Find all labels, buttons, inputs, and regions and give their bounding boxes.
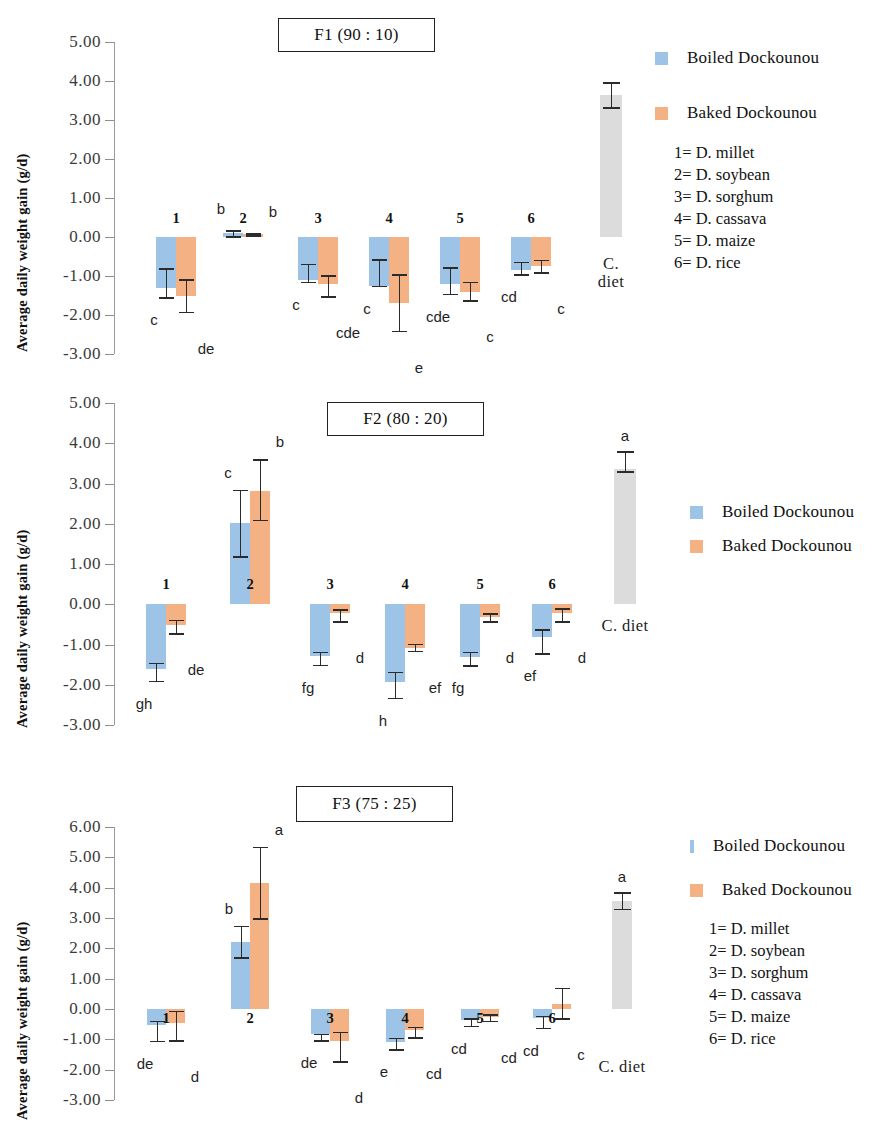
legend-item-boiled-dockounou[interactable]: Boiled Dockounou <box>690 836 845 856</box>
error-bar-baked-6 <box>562 608 563 621</box>
y-axis-tick <box>105 443 114 444</box>
error-bar-baked-3 <box>328 275 329 296</box>
y-axis-tick <box>105 276 114 277</box>
y-axis-tick-label: 3.00 <box>29 908 101 928</box>
error-bar-cap-top-control <box>614 892 631 894</box>
y-axis-tick <box>105 1070 114 1071</box>
group-number-5: 5 <box>476 576 483 593</box>
error-bar-baked-3 <box>340 609 341 621</box>
treatment-key-item-2: 2= D. soybean <box>709 940 808 962</box>
error-bar-cap-top-boiled-5 <box>463 652 478 654</box>
error-bar-cap-bottom-baked-2 <box>246 235 261 237</box>
y-axis-tick <box>105 645 114 646</box>
error-bar-boiled-3 <box>320 652 321 665</box>
sig-letter-baked-3: d <box>356 649 364 666</box>
y-axis-tick-label: -1.00 <box>29 266 101 286</box>
legend-item-boiled-dockounou[interactable]: Boiled Dockounou <box>690 502 854 522</box>
legend-swatch-baked <box>690 540 703 553</box>
error-bar-boiled-6 <box>543 1016 544 1028</box>
y-axis-tick-label: 5.00 <box>29 393 101 413</box>
group-number-2: 2 <box>239 210 246 227</box>
y-axis-tick-label: -2.00 <box>29 1060 101 1080</box>
sig-letter-boiled-4: e <box>380 1063 388 1080</box>
error-bar-cap-bottom-boiled-3 <box>301 282 316 284</box>
sig-letter-baked-2: a <box>275 821 283 838</box>
group-number-4: 4 <box>401 576 408 593</box>
error-bar-cap-top-boiled-2 <box>233 490 248 492</box>
legend-label: Baked Dockounou <box>687 103 817 123</box>
error-bar-cap-top-boiled-1 <box>159 268 174 270</box>
legend-swatch-boiled <box>690 840 694 853</box>
error-bar-cap-top-boiled-2 <box>234 926 249 928</box>
chart-panel-f1: Average daily weight gain (g/d) F1 (90 :… <box>0 0 872 380</box>
y-axis-tick-label: 1.00 <box>29 554 101 574</box>
sig-letter-boiled-4: c <box>363 300 371 317</box>
treatment-key-list: 1= D. millet2= D. soybean3= D. sorghum4=… <box>674 142 773 274</box>
error-bar-cap-top-boiled-5 <box>443 267 458 269</box>
y-axis-tick-label: -1.00 <box>29 635 101 655</box>
group-number-2: 2 <box>246 1010 253 1027</box>
error-bar-cap-bottom-baked-6 <box>534 272 549 274</box>
error-bar-boiled-6 <box>521 262 522 274</box>
y-axis-tick <box>105 403 114 404</box>
treatment-key-item-4: 4= D. cassava <box>674 208 773 230</box>
group-number-6: 6 <box>527 210 534 227</box>
error-bar-cap-bottom-baked-2 <box>253 918 268 920</box>
treatment-key-item-3: 3= D. sorghum <box>674 186 773 208</box>
error-bar-cap-bottom-boiled-4 <box>388 698 403 700</box>
legend-item-boiled-dockounou[interactable]: Boiled Dockounou <box>655 48 819 68</box>
group-number-3: 3 <box>326 1010 333 1027</box>
legend-item-baked-dockounou[interactable]: Baked Dockounou <box>690 880 852 900</box>
error-bar-cap-top-boiled-6 <box>535 629 550 631</box>
error-bar-cap-top-baked-5 <box>483 613 498 615</box>
error-bar-cap-top-baked-4 <box>408 1027 423 1029</box>
error-bar-cap-top-boiled-6 <box>514 262 529 264</box>
error-bar-cap-top-baked-2 <box>253 847 268 849</box>
y-axis-tick <box>105 315 114 316</box>
error-bar-cap-top-baked-4 <box>408 644 423 646</box>
error-bar-cap-bottom-baked-5 <box>483 1021 498 1023</box>
y-axis-tick <box>105 1100 114 1101</box>
error-bar-boiled-2 <box>240 490 241 556</box>
y-axis-tick-label: -1.00 <box>29 1029 101 1049</box>
error-bar-cap-bottom-baked-1 <box>179 312 194 314</box>
y-axis-tick <box>105 604 114 605</box>
error-bar-cap-bottom-baked-4 <box>392 331 407 333</box>
treatment-key-item-6: 6= D. rice <box>674 252 773 274</box>
group-number-1: 1 <box>162 1010 169 1027</box>
error-bar-boiled-5 <box>470 652 471 666</box>
sig-letter-baked-3: cde <box>336 324 360 341</box>
sig-letter-boiled-6: cd <box>501 288 517 305</box>
error-bar-cap-bottom-baked-4 <box>408 1037 423 1039</box>
legend-item-baked-dockounou[interactable]: Baked Dockounou <box>655 103 817 123</box>
error-bar-cap-bottom-baked-5 <box>483 621 498 623</box>
error-bar-cap-bottom-control <box>614 909 631 911</box>
y-axis-line <box>114 42 115 354</box>
sig-letter-baked-6: d <box>578 649 586 666</box>
sig-letter-boiled-5: cde <box>426 308 450 325</box>
y-axis-tick-label: -3.00 <box>29 1090 101 1110</box>
y-axis-tick <box>105 42 114 43</box>
sig-letter-boiled-3: fg <box>302 679 315 696</box>
y-axis-tick <box>105 685 114 686</box>
error-bar-baked-1 <box>176 620 177 634</box>
y-axis-tick <box>105 159 114 160</box>
sig-letter-boiled-4: h <box>379 712 387 729</box>
y-axis-tick <box>105 564 114 565</box>
y-axis-tick-label: 2.00 <box>29 514 101 534</box>
error-bar-boiled-1 <box>156 663 157 681</box>
error-bar-cap-bottom-baked-3 <box>333 621 348 623</box>
legend-item-baked-dockounou[interactable]: Baked Dockounou <box>690 536 852 556</box>
error-bar-cap-top-baked-1 <box>179 279 194 281</box>
error-bar-cap-bottom-control <box>617 471 634 473</box>
group-number-3: 3 <box>326 576 333 593</box>
treatment-key-item-1: 1= D. millet <box>709 918 808 940</box>
error-bar-boiled-1 <box>166 268 167 297</box>
bar-boiled-1 <box>146 604 166 669</box>
error-bar-cap-top-control <box>603 82 620 84</box>
error-bar-cap-bottom-baked-3 <box>321 296 336 298</box>
treatment-key-item-5: 5= D. maize <box>709 1006 808 1028</box>
error-bar-baked-6 <box>562 988 563 1018</box>
control-diet-label: C. diet <box>599 1058 646 1076</box>
error-bar-cap-top-baked-6 <box>534 260 549 262</box>
